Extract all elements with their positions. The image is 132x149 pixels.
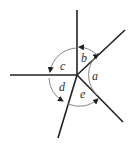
label-c: c: [60, 59, 66, 73]
angle-arcs: [49, 47, 98, 106]
label-b: b: [81, 51, 87, 65]
angles-diagram: a b c d e: [0, 0, 132, 149]
label-a: a: [92, 69, 98, 83]
label-e: e: [80, 87, 86, 101]
rays: [10, 10, 125, 138]
label-d: d: [59, 80, 66, 94]
